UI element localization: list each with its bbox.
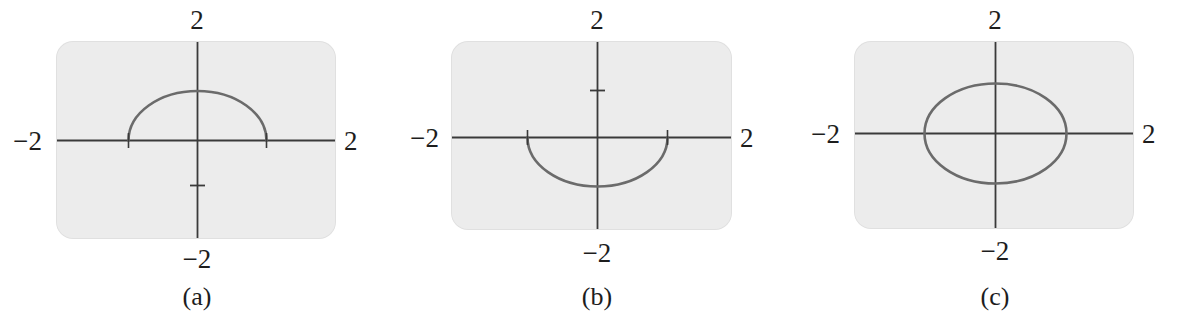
panel-caption-c: (c) [981, 284, 1010, 310]
axis-label-bottom-c: −2 [980, 238, 1009, 265]
axis-label-top-c: 2 [988, 7, 1002, 34]
figure-panel-row: 2 −2 −2 2 (a) 2 −2 −2 2 (b) [0, 0, 1179, 321]
axis-label-left-c: −2 [811, 121, 840, 148]
axis-label-right-c: 2 [1142, 121, 1156, 148]
plot-graphic-c [0, 0, 1179, 321]
figure-panel-c: 2 −2 −2 2 (c) [786, 0, 1179, 321]
